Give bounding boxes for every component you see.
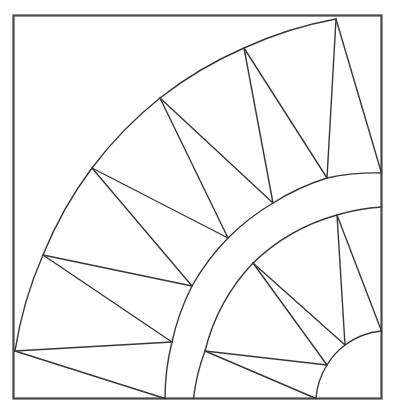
outer-band-spike-edge [336,19,382,173]
outer-band-spike-edge [92,168,228,238]
outer-band-spike-edge [15,351,165,399]
outer-band-spike-edge [15,342,172,351]
quilt-block-figure [0,0,396,411]
inner-band-spike-edge [205,351,327,365]
page-canvas [0,0,396,411]
outer-band-spike-edge [160,98,228,238]
square-frame [14,16,382,399]
inner-band-spike-edge [253,263,345,345]
inner-band-spike-edge [205,351,316,399]
outer-band-spike-edge [327,19,336,178]
outer-arc [15,19,336,351]
ring-inner-arc [194,207,382,399]
inner-band-spike-edge [253,263,327,365]
ring-outer-arc [165,173,382,399]
